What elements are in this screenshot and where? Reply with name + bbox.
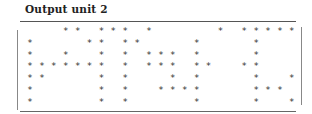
asterisk-mark: * bbox=[238, 25, 250, 37]
asterisk-mark: * bbox=[119, 49, 131, 61]
asterisk-mark: * bbox=[155, 49, 167, 61]
asterisk-mark: * bbox=[72, 60, 84, 72]
asterisk-mark: * bbox=[167, 72, 179, 84]
asterisk-mark: * bbox=[95, 72, 107, 84]
asterisk-mark: * bbox=[191, 84, 203, 96]
asterisk-mark: * bbox=[143, 25, 155, 37]
asterisk-mark: * bbox=[250, 72, 262, 84]
asterisk-mark: * bbox=[191, 49, 203, 61]
asterisk-mark: * bbox=[250, 84, 262, 96]
asterisk-mark: * bbox=[72, 25, 84, 37]
asterisk-mark: * bbox=[107, 25, 119, 37]
asterisk-mark: * bbox=[250, 60, 262, 72]
asterisk-mark: * bbox=[84, 37, 96, 49]
asterisk-mark: * bbox=[119, 72, 131, 84]
asterisk-mark: * bbox=[119, 84, 131, 96]
asterisk-mark: * bbox=[95, 37, 107, 49]
asterisk-mark: * bbox=[191, 72, 203, 84]
asterisk-mark: * bbox=[250, 96, 262, 108]
asterisk-mark: * bbox=[274, 25, 286, 37]
asterisk-mark: * bbox=[262, 25, 274, 37]
asterisk-mark: * bbox=[191, 96, 203, 108]
asterisk-mark: * bbox=[36, 60, 48, 72]
asterisk-mark: * bbox=[60, 49, 72, 61]
asterisk-mark: * bbox=[36, 72, 48, 84]
asterisk-mark: * bbox=[167, 60, 179, 72]
asterisk-mark: * bbox=[119, 60, 131, 72]
asterisk-mark: * bbox=[286, 96, 298, 108]
bottom-divider bbox=[20, 111, 296, 112]
asterisk-mark: * bbox=[179, 84, 191, 96]
asterisk-mark: * bbox=[84, 60, 96, 72]
asterisk-mark: * bbox=[95, 25, 107, 37]
asterisk-mark: * bbox=[250, 37, 262, 49]
asterisk-mark: * bbox=[60, 25, 72, 37]
asterisk-mark: * bbox=[262, 84, 274, 96]
asterisk-mark: * bbox=[60, 60, 72, 72]
top-divider bbox=[20, 21, 296, 22]
output-unit-title: Output unit 2 bbox=[25, 3, 108, 15]
asterisk-mark: * bbox=[155, 60, 167, 72]
asterisk-mark: * bbox=[24, 96, 36, 108]
asterisk-mark: * bbox=[95, 84, 107, 96]
asterisk-mark: * bbox=[24, 60, 36, 72]
asterisk-mark: * bbox=[250, 25, 262, 37]
left-border bbox=[17, 30, 18, 110]
asterisk-mark: * bbox=[95, 49, 107, 61]
asterisk-mark: * bbox=[48, 60, 60, 72]
asterisk-mark: * bbox=[143, 49, 155, 61]
asterisk-mark: * bbox=[286, 25, 298, 37]
asterisk-mark: * bbox=[95, 60, 107, 72]
asterisk-mark: * bbox=[167, 84, 179, 96]
asterisk-mark: * bbox=[119, 96, 131, 108]
asterisk-mark: * bbox=[95, 96, 107, 108]
asterisk-mark: * bbox=[214, 25, 226, 37]
asterisk-mark: * bbox=[24, 49, 36, 61]
asterisk-mark: * bbox=[24, 84, 36, 96]
asterisk-mark: * bbox=[131, 37, 143, 49]
asterisk-mark: * bbox=[24, 37, 36, 49]
asterisk-mark: * bbox=[191, 37, 203, 49]
asterisk-mark: * bbox=[238, 60, 250, 72]
asterisk-mark: * bbox=[155, 84, 167, 96]
asterisk-mark: * bbox=[274, 84, 286, 96]
asterisk-mark: * bbox=[119, 25, 131, 37]
asterisk-mark: * bbox=[250, 49, 262, 61]
right-border bbox=[301, 27, 302, 105]
asterisk-mark: * bbox=[119, 37, 131, 49]
asterisk-mark: * bbox=[203, 60, 215, 72]
asterisk-mark: * bbox=[143, 60, 155, 72]
asterisk-mark: * bbox=[286, 72, 298, 84]
asterisk-mark: * bbox=[191, 60, 203, 72]
asterisk-mark: * bbox=[24, 72, 36, 84]
asterisk-mark: * bbox=[167, 49, 179, 61]
